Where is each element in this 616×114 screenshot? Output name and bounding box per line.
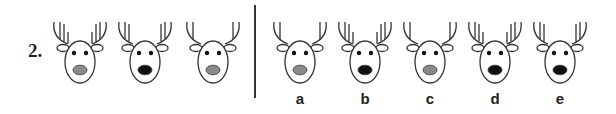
sequence-reindeer-2 [113,18,177,88]
eye-icon [357,51,361,55]
question-number: 2. [28,40,42,62]
eye-icon [84,51,88,55]
eye-icon [434,51,438,55]
option-b-reindeer[interactable] [333,18,397,88]
nose-icon [488,65,502,75]
nose-icon [138,65,152,75]
left-antler-icon [534,22,548,44]
head-icon [285,41,315,83]
eye-icon [304,51,308,55]
right-antler-icon [312,22,326,44]
eye-icon [552,51,556,55]
left-antler-icon [339,22,353,44]
left-antler-icon [54,22,68,44]
eye-icon [369,51,373,55]
eye-icon [72,51,76,55]
eye-icon [205,51,209,55]
sequence-reindeer-3 [181,18,245,88]
eye-icon [292,51,296,55]
option-d-label[interactable]: d [485,90,505,107]
eye-icon [217,51,221,55]
right-antler-icon [92,22,106,44]
head-icon [198,41,228,83]
eye-icon [137,51,141,55]
nose-icon [73,65,87,75]
right-antler-icon [572,22,586,44]
left-antler-icon [274,22,288,44]
left-antler-icon [187,22,201,44]
head-icon [480,41,510,83]
option-b-label[interactable]: b [355,90,375,107]
divider-line [254,5,256,98]
left-antler-icon [119,22,133,44]
head-icon [350,41,380,83]
option-c-reindeer[interactable] [398,18,462,88]
eye-icon [499,51,503,55]
right-antler-icon [377,22,391,44]
sequence-reindeer-1 [48,18,112,88]
option-c-label[interactable]: c [420,90,440,107]
head-icon [65,41,95,83]
head-icon [130,41,160,83]
option-d-reindeer[interactable] [463,18,527,88]
right-antler-icon [225,22,239,44]
eye-icon [564,51,568,55]
right-antler-icon [442,22,456,44]
option-e-reindeer[interactable] [528,18,592,88]
head-icon [545,41,575,83]
eye-icon [487,51,491,55]
nose-icon [358,65,372,75]
nose-icon [293,65,307,75]
nose-icon [423,65,437,75]
option-a-reindeer[interactable] [268,18,332,88]
nose-icon [206,65,220,75]
left-antler-icon [469,22,483,44]
nose-icon [553,65,567,75]
head-icon [415,41,445,83]
right-antler-icon [157,22,171,44]
eye-icon [149,51,153,55]
eye-icon [422,51,426,55]
option-a-label[interactable]: a [290,90,310,107]
right-antler-icon [507,22,521,44]
left-antler-icon [404,22,418,44]
option-e-label[interactable]: e [550,90,570,107]
